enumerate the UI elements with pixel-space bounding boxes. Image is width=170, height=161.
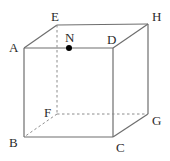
vertex-label-A: A (9, 41, 18, 54)
cube-edge-A-E (24, 25, 57, 48)
vertex-label-G: G (152, 114, 161, 127)
cube-edge-C-G (113, 114, 148, 137)
cube-edge-F-B (24, 114, 57, 137)
hidden-edges-group (24, 25, 148, 137)
cube-edge-E-H (57, 24, 148, 25)
cube-svg (0, 0, 170, 161)
geometry-figure: ABCDEFGHN (0, 0, 170, 161)
vertex-label-D: D (107, 33, 116, 46)
vertex-label-F: F (44, 106, 51, 119)
vertex-label-H: H (152, 10, 161, 23)
point-label-N: N (65, 31, 74, 44)
marked-point-N (66, 45, 72, 51)
cube-edge-D-H (113, 24, 148, 48)
vertex-label-B: B (9, 136, 18, 149)
vertex-label-C: C (116, 141, 125, 154)
vertex-label-E: E (51, 10, 59, 23)
solid-edges-group (24, 24, 148, 137)
marked-points-group (66, 45, 72, 51)
